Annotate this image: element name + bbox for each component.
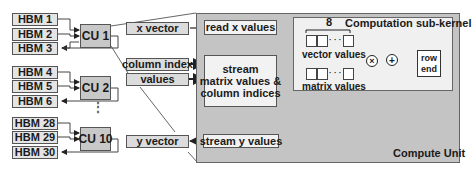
brace xyxy=(0,0,474,171)
